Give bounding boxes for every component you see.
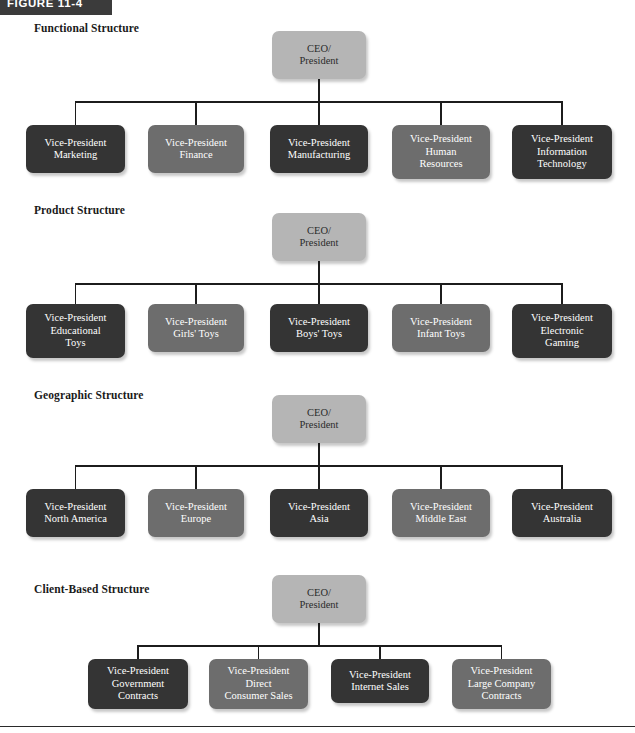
node-text-line: Vice-President <box>531 312 593 324</box>
node-text-line: Finance <box>179 149 212 161</box>
node-text-line: Asia <box>309 513 328 525</box>
vice-president-node: Vice-PresidentLarge CompanyContracts <box>452 659 551 709</box>
connector-bus <box>138 645 502 647</box>
node-text-line: Electronic <box>540 325 583 337</box>
connector-drop <box>501 645 503 659</box>
vice-president-node: Vice-PresidentInformationTechnology <box>512 125 612 179</box>
node-text-line: Consumer Sales <box>225 690 293 702</box>
node-text-line: Manufacturing <box>288 149 350 161</box>
node-text-line: CEO/ <box>307 225 331 237</box>
connector-drop <box>195 283 197 304</box>
vice-president-node: Vice-PresidentAsia <box>270 489 368 537</box>
connector-drop <box>318 465 320 489</box>
node-text-line: North America <box>44 513 107 525</box>
section-title: Product Structure <box>34 204 125 216</box>
connector-drop <box>75 465 77 489</box>
connector-stem <box>318 261 320 283</box>
connector-drop <box>75 283 77 304</box>
vice-president-node: Vice-PresidentManufacturing <box>270 125 368 173</box>
connector-drop <box>561 283 563 304</box>
node-text-line: Vice-President <box>288 316 350 328</box>
section-title: Functional Structure <box>34 22 139 34</box>
node-text-line: President <box>299 419 338 431</box>
connector-drop <box>258 645 260 659</box>
ceo-president-node: CEO/President <box>272 395 366 443</box>
node-text-line: Contracts <box>118 690 158 702</box>
node-text-line: Vice-President <box>107 665 169 677</box>
vice-president-node: Vice-PresidentHumanResources <box>392 125 490 179</box>
node-text-line: Educational <box>50 325 100 337</box>
node-text-line: Infant Toys <box>417 328 465 340</box>
node-text-line: Vice-President <box>45 312 107 324</box>
vice-president-node: Vice-PresidentDirectConsumer Sales <box>209 659 308 709</box>
vice-president-node: Vice-PresidentEducationalToys <box>26 304 125 358</box>
node-text-line: Vice-President <box>531 133 593 145</box>
connector-drop <box>440 283 442 304</box>
figure-number-label: FIGURE 11-4 <box>0 0 112 15</box>
vice-president-node: Vice-PresidentInfant Toys <box>392 304 490 352</box>
vice-president-node: Vice-PresidentNorth America <box>26 489 125 537</box>
node-text-line: Vice-President <box>349 669 411 681</box>
node-text-line: Direct <box>245 678 271 690</box>
vice-president-node: Vice-PresidentEurope <box>148 489 244 537</box>
node-text-line: Middle East <box>415 513 466 525</box>
node-text-line: Vice-President <box>165 316 227 328</box>
vice-president-node: Vice-PresidentBoys' Toys <box>270 304 368 352</box>
node-text-line: Large Company <box>468 678 536 690</box>
vice-president-node: Vice-PresidentInternet Sales <box>331 659 429 703</box>
node-text-line: Vice-President <box>471 665 533 677</box>
node-text-line: Australia <box>543 513 582 525</box>
node-text-line: Contracts <box>481 690 521 702</box>
vice-president-node: Vice-PresidentFinance <box>148 125 244 173</box>
vice-president-node: Vice-PresidentElectronicGaming <box>512 304 612 358</box>
node-text-line: CEO/ <box>307 587 331 599</box>
vice-president-node: Vice-PresidentGirls' Toys <box>148 304 244 352</box>
node-text-line: Vice-President <box>45 137 107 149</box>
vice-president-node: Vice-PresidentMiddle East <box>392 489 490 537</box>
node-text-line: President <box>299 55 338 67</box>
connector-drop <box>561 101 563 125</box>
connector-stem <box>318 623 320 645</box>
ceo-president-node: CEO/President <box>272 213 366 261</box>
node-text-line: President <box>299 237 338 249</box>
footer-divider <box>0 726 635 728</box>
node-text-line: Gaming <box>545 337 579 349</box>
section-title: Geographic Structure <box>34 389 143 401</box>
ceo-president-node: CEO/President <box>272 575 366 623</box>
node-text-line: Vice-President <box>410 133 472 145</box>
connector-drop <box>75 101 77 125</box>
node-text-line: Technology <box>537 158 586 170</box>
connector-drop <box>379 645 381 659</box>
node-text-line: Girls' Toys <box>173 328 219 340</box>
node-text-line: Internet Sales <box>351 681 408 693</box>
connector-drop <box>195 101 197 125</box>
node-text-line: Europe <box>181 513 211 525</box>
node-text-line: Toys <box>65 337 85 349</box>
node-text-line: CEO/ <box>307 43 331 55</box>
node-text-line: Vice-President <box>165 501 227 513</box>
node-text-line: Vice-President <box>531 501 593 513</box>
connector-drop <box>561 465 563 489</box>
node-text-line: Vice-President <box>410 501 472 513</box>
node-text-line: Resources <box>419 158 462 170</box>
connector-drop <box>440 101 442 125</box>
vice-president-node: Vice-PresidentGovernmentContracts <box>88 659 188 709</box>
node-text-line: Marketing <box>54 149 98 161</box>
vice-president-node: Vice-PresidentAustralia <box>512 489 612 537</box>
connector-drop <box>440 465 442 489</box>
connector-drop <box>318 283 320 304</box>
node-text-line: Government <box>112 678 165 690</box>
node-text-line: Human <box>426 146 457 158</box>
node-text-line: Vice-President <box>228 665 290 677</box>
connector-drop <box>318 101 320 125</box>
ceo-president-node: CEO/President <box>272 31 366 79</box>
vice-president-node: Vice-PresidentMarketing <box>26 125 125 173</box>
node-text-line: Vice-President <box>288 501 350 513</box>
node-text-line: Vice-President <box>288 137 350 149</box>
connector-drop <box>195 465 197 489</box>
node-text-line: Vice-President <box>410 316 472 328</box>
section-title: Client-Based Structure <box>34 583 149 595</box>
node-text-line: Vice-President <box>45 501 107 513</box>
node-text-line: President <box>299 599 338 611</box>
connector-drop <box>137 645 139 659</box>
